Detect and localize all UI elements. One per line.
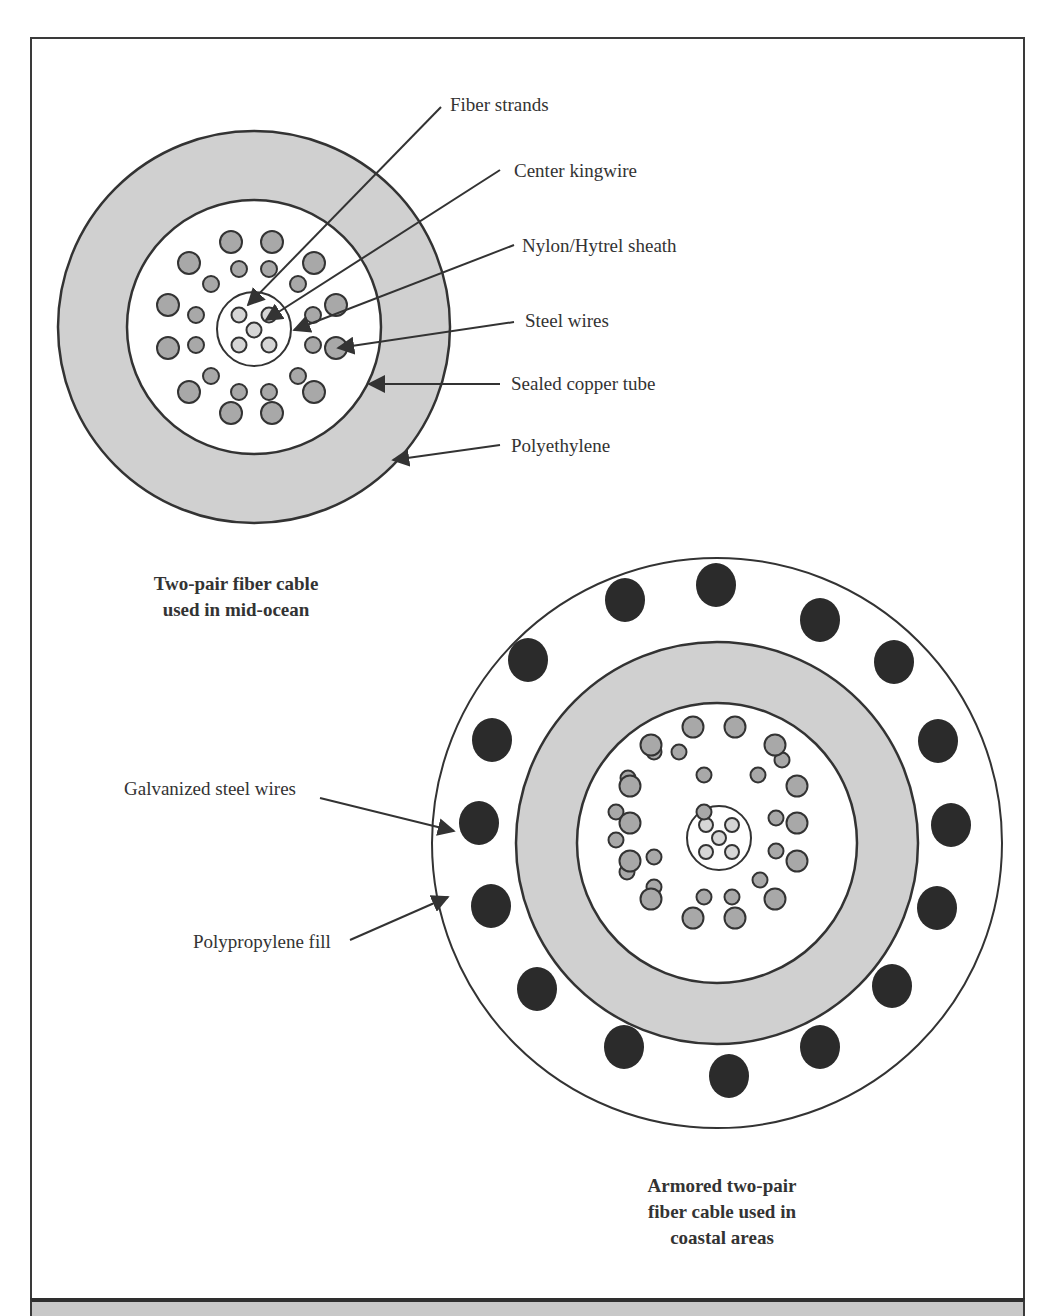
caption-armored-line1: Armored two-pair: [648, 1175, 798, 1196]
mid-ocean-cable: Fiber strands Center kingwire Nylon/Hytr…: [58, 94, 677, 620]
caption-bar: [30, 1298, 1025, 1316]
leader-polypropylene: [350, 897, 448, 940]
caption-armored-line3: coastal areas: [670, 1227, 774, 1248]
cable-diagram: Fiber strands Center kingwire Nylon/Hytr…: [0, 0, 1049, 1316]
label-polyethylene: Polyethylene: [511, 435, 610, 456]
label-galvanized: Galvanized steel wires: [124, 778, 296, 799]
label-steel-wires: Steel wires: [525, 310, 609, 331]
caption-mid-ocean-line1: Two-pair fiber cable: [154, 573, 319, 594]
armored-coastal-cable: Galvanized steel wires Polypropylene fil…: [124, 558, 1002, 1248]
label-sheath: Nylon/Hytrel sheath: [522, 235, 677, 256]
label-copper-tube: Sealed copper tube: [511, 373, 656, 394]
caption-mid-ocean-line2: used in mid-ocean: [163, 599, 310, 620]
label-polypropylene: Polypropylene fill: [193, 931, 331, 952]
label-fiber-strands: Fiber strands: [450, 94, 549, 115]
caption-armored-line2: fiber cable used in: [648, 1201, 796, 1222]
label-center-kingwire: Center kingwire: [514, 160, 637, 181]
